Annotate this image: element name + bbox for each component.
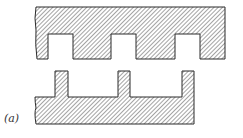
diagram-canvas xyxy=(0,0,243,138)
figure-label: (a) xyxy=(4,112,19,125)
meshing-comb-diagram: (a) xyxy=(0,0,243,138)
bottom-toothed-piece xyxy=(35,71,194,124)
top-toothed-piece xyxy=(35,7,225,59)
